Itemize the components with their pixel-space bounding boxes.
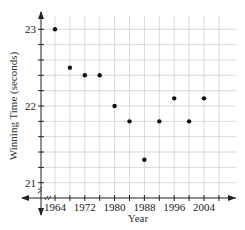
grid-lines [41, 16, 236, 198]
data-point [157, 119, 161, 123]
data-point [142, 157, 146, 161]
data-point [202, 96, 206, 100]
data-point [68, 65, 72, 69]
axis-ticks [38, 29, 219, 201]
tick-labels: 212223196419721980198819962004 [25, 23, 216, 213]
data-point [83, 73, 87, 77]
data-point [187, 119, 191, 123]
arrow-right-icon [228, 195, 236, 201]
x-tick-label: 1996 [163, 201, 186, 213]
y-tick-label: 23 [25, 23, 37, 35]
y-tick-label: 21 [25, 177, 36, 189]
scatter-chart: 212223196419721980198819962004 Year Winn… [0, 0, 245, 230]
data-point [98, 73, 102, 77]
data-point [127, 119, 131, 123]
data-point [112, 104, 116, 108]
data-point [53, 27, 57, 31]
arrow-left-icon [21, 195, 29, 201]
x-tick-label: 1980 [104, 201, 127, 213]
x-tick-label: 2004 [193, 201, 216, 213]
data-point [172, 96, 176, 100]
x-axis-title: Year [128, 212, 149, 224]
x-tick-label: 1972 [74, 201, 96, 213]
y-tick-label: 22 [25, 100, 36, 112]
arrow-up-icon [38, 11, 44, 19]
y-axis-title: Winning Time (seconds) [7, 52, 20, 161]
x-tick-label: 1964 [44, 201, 67, 213]
